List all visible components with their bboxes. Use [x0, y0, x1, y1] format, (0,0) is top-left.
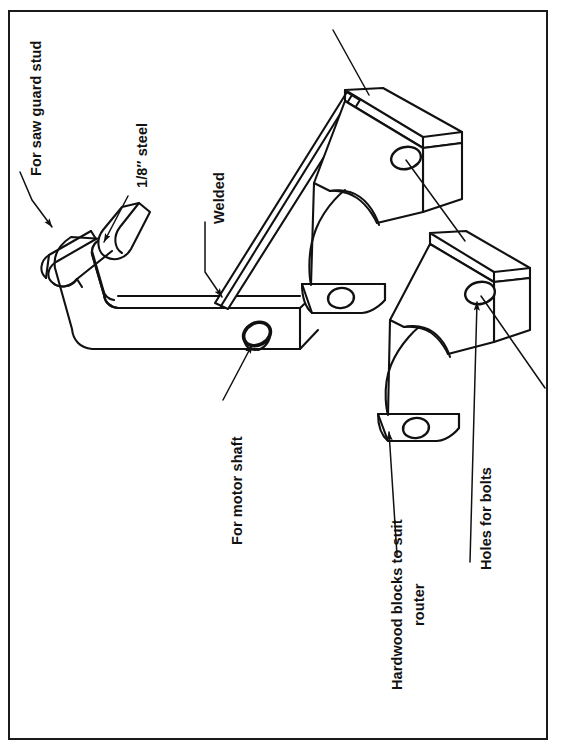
label-hardwood-blocks-line2: router	[411, 583, 427, 626]
label-holes-for-bolts: Holes for bolts	[478, 467, 496, 570]
label-welded: Welded	[211, 172, 229, 224]
leader-welded	[205, 222, 222, 297]
label-hardwood-blocks-line1: Hardwood blocks to suit	[389, 519, 405, 690]
lower-hardwood-block	[378, 231, 530, 441]
leader-motor-shaft	[223, 345, 252, 400]
label-for-saw-guard-stud: For saw guard stud	[28, 40, 46, 176]
label-for-motor-shaft: For motor shaft	[229, 436, 247, 545]
leader-upper-block-plain	[333, 30, 369, 95]
drawing-page: .s { fill:none; stroke:#111; stroke-widt…	[0, 0, 562, 754]
label-steel-gauge: 1/8″ steel	[134, 123, 152, 188]
technical-drawing-illustration: .s { fill:none; stroke:#111; stroke-widt…	[0, 0, 562, 754]
label-hardwood-blocks: Hardwood blocks to suitrouter	[386, 519, 431, 690]
leader-saw-guard-stud	[20, 172, 52, 227]
